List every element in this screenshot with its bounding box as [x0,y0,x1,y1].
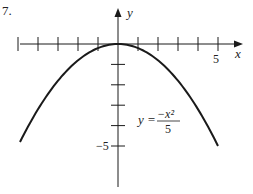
equation-denominator: 5 [165,122,171,136]
x-axis [18,37,243,51]
y-axis-label: y [125,5,133,20]
x-tick-label-5: 5 [213,52,219,66]
equation-label: y = −x² 5 [136,107,180,136]
problem-number: 7. [2,3,12,18]
y-axis-arrow-icon [115,8,122,17]
x-axis-label: x [234,46,241,61]
parabola-graph: 7. y x 5 −5 y = −x² 5 [0,0,253,194]
parabola-curve [20,44,218,146]
y-axis [111,8,125,187]
y-tick-label-neg5: −5 [96,139,109,153]
equation-lhs: y = [136,112,156,127]
equation-numerator: −x² [157,107,174,121]
